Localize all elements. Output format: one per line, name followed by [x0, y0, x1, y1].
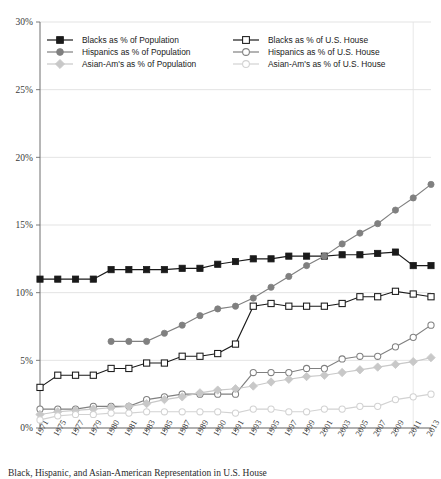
data-point [179, 322, 185, 328]
data-point [197, 313, 203, 319]
data-point [392, 396, 398, 402]
data-point [108, 365, 114, 371]
data-point [179, 353, 185, 359]
data-point [428, 322, 434, 328]
data-point [125, 402, 133, 410]
data-point [243, 37, 250, 44]
data-point [410, 263, 416, 269]
data-point [215, 261, 221, 267]
data-point [250, 256, 256, 262]
data-point [373, 363, 381, 371]
series-line [111, 184, 431, 341]
data-point [144, 338, 150, 344]
data-point [161, 409, 167, 415]
data-point [356, 366, 364, 374]
data-point [37, 276, 43, 282]
series-2 [108, 181, 434, 344]
line-chart: 0%5%10%15%20%25%30%197119751977197919801… [0, 0, 441, 479]
data-point [321, 303, 327, 309]
data-point [90, 411, 96, 417]
data-point [232, 341, 238, 347]
legend-label: Blacks as % of Population [82, 35, 179, 45]
data-point [302, 372, 310, 380]
data-point [268, 300, 274, 306]
data-point [215, 306, 221, 312]
legend-label: Hispanics as % of U.S. House [268, 47, 380, 57]
legend: Blacks as % of PopulationHispanics as % … [47, 35, 386, 69]
data-point [55, 276, 61, 282]
data-point [250, 369, 256, 375]
data-point [339, 300, 345, 306]
data-point [126, 410, 132, 416]
data-point [392, 288, 398, 294]
y-tick-label: 0% [20, 423, 33, 433]
data-point [144, 360, 150, 366]
legend-label: Asian-Am's as % of Population [82, 59, 197, 69]
data-point [303, 253, 309, 259]
data-point [338, 368, 346, 376]
data-point [250, 303, 256, 309]
data-point [250, 406, 256, 412]
data-point [249, 382, 257, 390]
data-point [215, 350, 221, 356]
data-point [303, 365, 309, 371]
y-tick-label: 30% [16, 17, 34, 27]
data-point [357, 294, 363, 300]
series-0 [37, 249, 434, 282]
data-point [55, 59, 64, 68]
data-point [392, 249, 398, 255]
data-point [197, 265, 203, 271]
data-point [339, 252, 345, 258]
data-point [72, 276, 78, 282]
y-gridlines [40, 22, 431, 428]
data-point [267, 378, 275, 386]
legend-label: Hispanics as % of Population [82, 47, 191, 57]
data-point [375, 250, 381, 256]
data-point [303, 409, 309, 415]
x-axis-ticks: 1971197519771979198019811983198519871989… [33, 418, 441, 438]
data-point [243, 61, 250, 68]
data-point [321, 253, 327, 259]
data-point [375, 294, 381, 300]
y-tick-label: 20% [16, 153, 34, 163]
data-point [126, 365, 132, 371]
data-point [392, 207, 398, 213]
data-point [410, 195, 416, 201]
data-point [357, 252, 363, 258]
data-point [90, 276, 96, 282]
y-tick-label: 25% [16, 85, 34, 95]
chart-container: 0%5%10%15%20%25%30%197119751977197919801… [0, 0, 441, 479]
y-tick-label: 5% [20, 356, 33, 366]
data-point [357, 403, 363, 409]
data-point [285, 375, 293, 383]
data-point [286, 303, 292, 309]
data-point [428, 263, 434, 269]
data-point [215, 409, 221, 415]
data-point [108, 267, 114, 273]
data-point [268, 369, 274, 375]
x-tick-label: 2013 [424, 418, 441, 438]
data-point [55, 413, 61, 419]
legend-label: Asian-Am's as % of U.S. House [268, 59, 386, 69]
data-point [37, 417, 43, 423]
data-point [57, 49, 64, 56]
data-point [179, 409, 185, 415]
data-point [144, 409, 150, 415]
data-point [391, 360, 399, 368]
data-point [179, 265, 185, 271]
data-point [57, 37, 64, 44]
data-point [161, 267, 167, 273]
y-tick-label: 10% [16, 288, 34, 298]
data-point [286, 253, 292, 259]
data-point [231, 385, 239, 393]
data-point [108, 338, 114, 344]
data-point [321, 406, 327, 412]
data-point [72, 411, 78, 417]
data-point [286, 409, 292, 415]
data-point [428, 391, 434, 397]
data-point [428, 181, 434, 187]
data-point [410, 334, 416, 340]
data-point [108, 410, 114, 416]
data-point [375, 221, 381, 227]
y-tick-label: 15% [16, 220, 34, 230]
